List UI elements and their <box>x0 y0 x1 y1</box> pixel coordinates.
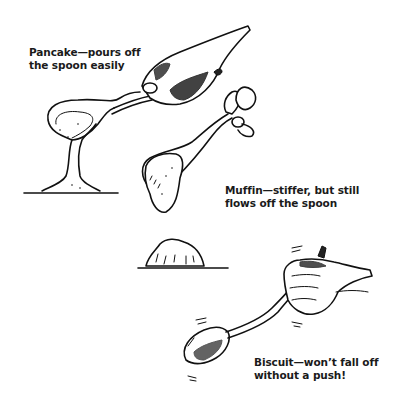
muffin-label-line1: Muffin—stiffer, but still <box>225 184 359 197</box>
pancake-label-line2: the spoon easily <box>29 59 141 72</box>
biscuit-label: Biscuit—won’t fall off without a push! <box>254 356 378 382</box>
muffin-drawing-icon <box>138 87 256 268</box>
pancake-label: Pancake—pours off the spoon easily <box>29 46 141 72</box>
muffin-label-line2: flows off the spoon <box>225 197 359 210</box>
batter-consistency-figure: Pancake—pours off the spoon easily Muffi… <box>0 0 394 408</box>
muffin-label: Muffin—stiffer, but still flows off the … <box>225 184 359 210</box>
pancake-label-line1: Pancake—pours off <box>29 46 141 59</box>
biscuit-label-line1: Biscuit—won’t fall off <box>254 356 378 369</box>
biscuit-label-line2: without a push! <box>254 369 378 382</box>
